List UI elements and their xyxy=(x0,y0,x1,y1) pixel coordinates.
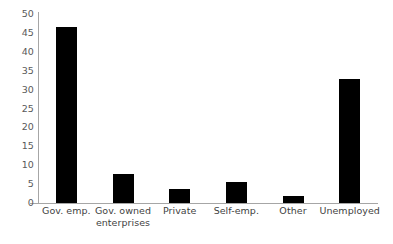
x-axis-category-label-line: Unemployed xyxy=(314,205,385,217)
bar xyxy=(226,182,247,203)
x-axis-category-label: Unemployed xyxy=(314,205,385,217)
bar xyxy=(283,196,304,203)
bar xyxy=(56,27,77,203)
x-axis-category-label-line: enterprises xyxy=(88,217,159,229)
bar-chart: 50454035302520151050 Gov. emp.Gov. owned… xyxy=(0,0,393,244)
x-axis-category-labels: Gov. emp.Gov. ownedenterprisesPrivateSel… xyxy=(0,205,393,244)
bar xyxy=(169,189,190,203)
bar xyxy=(113,174,134,203)
bar xyxy=(339,79,360,203)
